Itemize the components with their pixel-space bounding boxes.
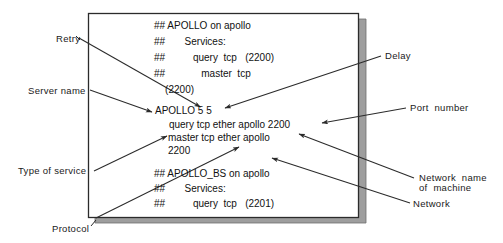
annotation-label-network-name-of-machine-line2: of machine xyxy=(419,182,471,193)
config-line-bot-2: ## Services: xyxy=(154,183,226,195)
annotation-label-server-name: Server name xyxy=(28,85,86,96)
annotation-label-protocol: Protocol xyxy=(52,223,89,234)
config-line-mid-1: APOLLO 5 5 xyxy=(155,105,212,117)
figure-root: ## APOLLO on apollo ## Services: ## quer… xyxy=(0,0,503,243)
config-line-mid-4: 2200 xyxy=(168,145,190,157)
annotation-label-network: Network xyxy=(413,198,450,209)
annotation-label-type-of-service: Type of service xyxy=(18,165,86,176)
config-line-top-2: ## Services: xyxy=(154,36,226,48)
annotation-label-port-number: Port number xyxy=(410,102,469,113)
config-line-bot-1: ## APOLLO_BS on apollo xyxy=(154,168,270,180)
config-line-top-1: ## APOLLO on apollo xyxy=(154,20,251,32)
config-line-top-5: (2200) xyxy=(154,84,194,96)
config-line-top-3: ## query tcp (2200) xyxy=(154,52,274,64)
config-line-bot-3: ## query tcp (2201) xyxy=(154,198,274,210)
config-line-mid-3: master tcp ether apollo xyxy=(168,132,270,144)
annotation-label-retry: Retry xyxy=(56,33,80,44)
config-line-top-4: ## master tcp xyxy=(154,68,251,80)
annotation-label-delay: Delay xyxy=(385,50,411,61)
config-line-mid-2: query tcp ether apollo 2200 xyxy=(155,119,290,131)
